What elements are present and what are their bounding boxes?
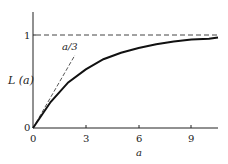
xtick-label-9: 9 <box>188 133 194 144</box>
xtick-label-6: 6 <box>136 133 142 144</box>
ytick-label-1: 1 <box>24 30 30 41</box>
tangent-annotation: a/3 <box>62 41 78 52</box>
x-axis-label: a <box>136 147 142 158</box>
curve-L <box>33 38 218 129</box>
ytick-label-0: 0 <box>24 122 30 133</box>
y-axis-label: L (a) <box>7 74 34 87</box>
chart: 1 0 0 3 6 9 L (a) a a/3 <box>0 0 228 164</box>
xtick-label-3: 3 <box>83 133 89 144</box>
xtick-label-0: 0 <box>30 133 36 144</box>
